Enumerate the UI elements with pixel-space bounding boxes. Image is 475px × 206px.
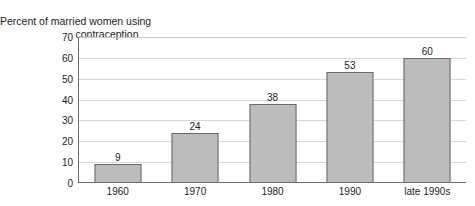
plot-area: 70 60 50 40 30 20 10 0 9: [78, 37, 466, 183]
bar-series: 9 24 38 53 60: [79, 37, 466, 183]
y-tick-label-50: 50: [62, 73, 73, 84]
bar-value-1960: 9: [115, 152, 121, 163]
bar-slot-late-1990s: 60: [389, 37, 466, 183]
x-tick-label-1970: 1970: [156, 186, 233, 197]
x-tick-label-1990: 1990: [311, 186, 388, 197]
y-tick-label-10: 10: [62, 157, 73, 168]
bar-1990[interactable]: 53: [326, 72, 373, 183]
y-tick-label-60: 60: [62, 52, 73, 63]
bar-slot-1990: 53: [311, 37, 388, 183]
bar-1970[interactable]: 24: [172, 133, 219, 183]
bar-1960[interactable]: 9: [94, 164, 141, 183]
bar-slot-1970: 24: [156, 37, 233, 183]
bar-slot-1980: 38: [234, 37, 311, 183]
bar-value-1980: 38: [267, 92, 278, 103]
y-tick-label-0: 0: [67, 178, 73, 189]
bar-value-late-1990s: 60: [422, 46, 433, 57]
bar-value-1970: 24: [190, 121, 201, 132]
x-axis-labels: 1960 1970 1980 1990 late 1990s: [79, 186, 466, 197]
chart-title-line-1: Percent of married women using: [0, 15, 151, 27]
x-tick-label-1980: 1980: [234, 186, 311, 197]
y-tick-label-20: 20: [62, 136, 73, 147]
chart-screenshot: Percent of married women using contracep…: [0, 0, 475, 206]
bar-value-1990: 53: [344, 60, 355, 71]
y-tick-label-40: 40: [62, 94, 73, 105]
x-tick-label-late-1990s: late 1990s: [389, 186, 466, 197]
x-tick-label-1960: 1960: [79, 186, 156, 197]
bar-slot-1960: 9: [79, 37, 156, 183]
y-tick-label-30: 30: [62, 115, 73, 126]
bar-late-1990s[interactable]: 60: [404, 58, 451, 183]
bar-1980[interactable]: 38: [249, 104, 296, 183]
y-tick-label-70: 70: [62, 32, 73, 43]
